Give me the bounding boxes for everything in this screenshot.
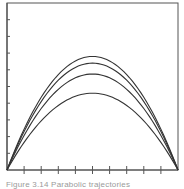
plot-frame — [7, 3, 178, 170]
plot-border — [7, 3, 178, 170]
figure-caption: Figure 3.14 Parabolic trajectories — [6, 180, 130, 189]
parabola-chart — [0, 0, 184, 180]
